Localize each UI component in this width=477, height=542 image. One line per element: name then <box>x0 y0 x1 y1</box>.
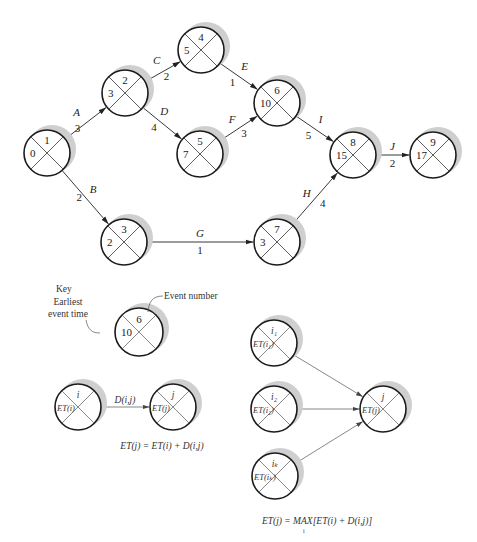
earliest-event-time: 5 <box>184 44 190 56</box>
key-title: Key <box>56 284 72 294</box>
key-legend: Key 610 Earliest event time Event number <box>48 284 218 356</box>
activity-duration-G: 1 <box>197 244 203 256</box>
key-earliest-label-1: Earliest <box>53 297 82 307</box>
earliest-event-time: 0 <box>30 147 36 159</box>
key-earliest-pointer <box>86 320 100 333</box>
event-number: 5 <box>197 135 203 147</box>
event-number: i₁ <box>271 326 277 336</box>
key-event-number-label: Event number <box>164 291 218 301</box>
formula-simple-equation: ET(j) = ET(i) + D(i,j) <box>119 441 203 452</box>
activity-duration-J: 2 <box>390 157 396 169</box>
event-number: 3 <box>121 223 127 235</box>
activity-name-G: G <box>196 227 204 239</box>
event-number: 6 <box>274 84 280 96</box>
earliest-event-time: 15 <box>336 149 348 161</box>
earliest-event-time: ET(j) <box>151 403 170 413</box>
activity-name-E: E <box>240 60 248 72</box>
event-node-6: 610 <box>254 75 306 126</box>
formula-max-edge-3 <box>295 422 363 464</box>
earliest-event-time: ET(iₖ) <box>253 472 276 482</box>
event-number: i <box>77 390 80 400</box>
key-node: 610 <box>115 303 169 356</box>
activity-name-F: F <box>228 113 236 125</box>
activity-name-H: H <box>302 187 312 199</box>
activity-edge-I <box>296 116 333 141</box>
formula-max-subscript: i <box>303 528 305 534</box>
activity-name-A: A <box>72 106 80 118</box>
activity-duration-E: 1 <box>230 76 236 88</box>
activity-duration-I: 5 <box>306 129 312 141</box>
earliest-event-time: 7 <box>183 148 189 160</box>
activity-edge-E <box>220 63 257 89</box>
earliest-event-time: ET(i) <box>56 403 75 413</box>
event-number: 8 <box>350 136 356 148</box>
formula-max-node-j: jET(j) <box>360 381 412 432</box>
formula-node-j: jET(j) <box>150 379 202 430</box>
key-earliest-label-2: event time <box>48 309 88 319</box>
event-number: 4 <box>198 31 204 43</box>
formula-max-edge-1 <box>294 355 363 397</box>
formula-max-equation: ET(j) = MAX[ET(i) + D(i,j)] <box>261 516 372 527</box>
activity-edge-A <box>65 108 106 139</box>
earliest-event-time: ET(j) <box>361 405 380 415</box>
event-node-3: 32 <box>101 214 153 265</box>
event-node-7: 73 <box>254 214 306 265</box>
activity-duration-F: 3 <box>241 127 247 139</box>
event-node-1: 10 <box>24 125 76 176</box>
activity-duration-A: 3 <box>75 122 81 134</box>
activity-name-C: C <box>153 54 161 66</box>
event-number: 7 <box>274 223 280 235</box>
activity-name-J: J <box>390 140 396 152</box>
event-node-5: 57 <box>177 126 229 177</box>
activity-duration-H: 4 <box>320 197 326 209</box>
formula-max-pred-3: iₖET(iₖ) <box>252 448 304 499</box>
event-number: iₖ <box>272 459 280 469</box>
diagram-canvas: 102332455761073815917 A3B2C2D4E1F3G1H4I5… <box>0 0 477 542</box>
event-number: 1 <box>44 134 50 146</box>
activity-duration-D: 4 <box>151 121 157 133</box>
earliest-event-time: 17 <box>416 149 428 161</box>
formula-max-pred-2: i₂ET(i₂) <box>251 381 303 432</box>
activity-edge-H <box>292 173 337 225</box>
activity-duration-C: 2 <box>164 70 170 82</box>
formula-simple-edge-label: D(i,j) <box>114 395 136 406</box>
earliest-event-time: 3 <box>260 236 266 248</box>
earliest-event-time: 3 <box>108 87 114 99</box>
formula-max: i₁ET(i₁)i₂ET(i₂)iₖET(iₖ)jET(j) <box>251 315 412 499</box>
event-number: 9 <box>430 136 436 148</box>
earliest-event-time: ET(i₁) <box>252 339 274 349</box>
activity-edge-B <box>62 170 108 223</box>
activity-name-B: B <box>90 183 97 195</box>
activity-name-D: D <box>159 105 168 117</box>
activity-name-I: I <box>318 113 324 125</box>
event-nodes: 102332455761073815917 <box>24 22 462 265</box>
earliest-event-time: ET(i₂) <box>252 405 274 415</box>
event-number: i₂ <box>271 392 278 402</box>
event-number: 2 <box>122 74 128 86</box>
formula-simple: D(i,j)iET(i)jET(j) <box>55 379 202 430</box>
event-node-9: 917 <box>410 127 462 178</box>
formula-node-i: iET(i) <box>55 379 107 430</box>
event-number: 6 <box>136 313 142 325</box>
event-node-4: 45 <box>178 22 230 73</box>
event-node-8: 815 <box>330 127 382 178</box>
activity-duration-B: 2 <box>76 191 82 203</box>
earliest-event-time: 10 <box>121 326 133 338</box>
earliest-event-time: 10 <box>260 97 272 109</box>
formula-max-pred-1: i₁ET(i₁) <box>251 315 303 366</box>
event-node-2: 23 <box>102 65 154 116</box>
earliest-event-time: 2 <box>107 236 113 248</box>
